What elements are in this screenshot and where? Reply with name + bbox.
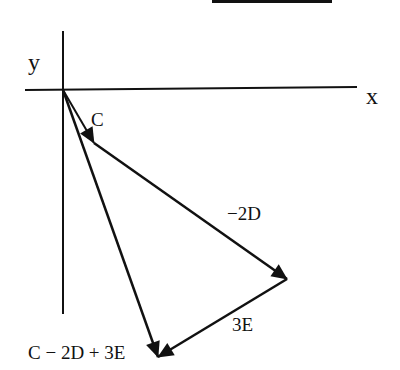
x-axis-label: x [366, 84, 378, 108]
vector-3e [158, 279, 287, 357]
vector-c-label: C [91, 110, 104, 129]
x-axis [25, 87, 357, 90]
y-axis-label: y [28, 50, 40, 74]
vector-minus-2d-label: −2D [227, 204, 261, 223]
vector-resultant [63, 90, 158, 357]
vector-3e-label: 3E [232, 315, 253, 334]
diagram-canvas [0, 0, 400, 370]
resultant-label: C − 2D + 3E [28, 343, 125, 362]
vector-diagram: y x C −2D 3E C − 2D + 3E [0, 0, 400, 370]
